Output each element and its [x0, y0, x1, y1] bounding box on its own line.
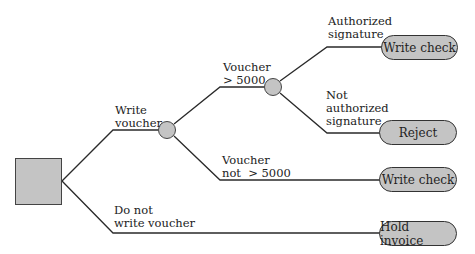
- label-line: write voucher: [114, 217, 195, 230]
- outcome-reject: Reject: [379, 120, 457, 145]
- branch-line-write-voucher: [62, 130, 158, 181]
- label-write-voucher: Write voucher: [115, 104, 162, 130]
- label-not-authorized-signature: Not authorized signature: [326, 89, 389, 128]
- label-line: > 5000: [223, 74, 271, 87]
- label-voucher-gt-5000: Voucher > 5000: [223, 61, 271, 87]
- label-line: not > 5000: [222, 167, 291, 180]
- label-authorized-signature: Authorized signature: [328, 15, 392, 41]
- outcome-hold-invoice: Hold invoice: [379, 221, 457, 246]
- label-line: signature: [326, 115, 389, 128]
- branch-line-authorized-signature: [280, 47, 382, 81]
- label-line: voucher: [115, 117, 162, 130]
- branch-line-voucher-gt-5000: [174, 87, 264, 124]
- outcome-write-check-small: Write check: [379, 167, 457, 192]
- label-line: signature: [328, 28, 392, 41]
- label-do-not-write-voucher: Do not write voucher: [114, 204, 195, 230]
- label-voucher-not-gt-5000: Voucher not > 5000: [222, 154, 291, 180]
- outcome-write-check-authorized: Write check: [381, 35, 458, 60]
- branch-line-do-not-write-voucher: [62, 181, 380, 233]
- decision-node-root: [15, 158, 62, 205]
